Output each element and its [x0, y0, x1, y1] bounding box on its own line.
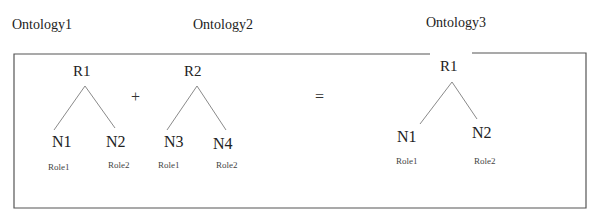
ontology1-title: Ontology1 — [12, 17, 72, 33]
tree1-node-left: N1 — [52, 133, 72, 151]
tree2-edges — [167, 86, 226, 130]
tree1-role-left: Role1 — [48, 162, 70, 172]
plus-operator: + — [131, 88, 140, 106]
diagram-lines — [0, 0, 594, 224]
tree3-node-left: N1 — [397, 128, 417, 146]
tree1-edges — [54, 86, 115, 130]
ontology2-title: Ontology2 — [193, 17, 253, 33]
tree1-node-right: N2 — [106, 133, 126, 151]
tree3-role-left: Role1 — [396, 156, 418, 166]
tree2-node-right: N4 — [213, 135, 233, 153]
tree2-role-right: Role2 — [216, 160, 238, 170]
tree3-role-right: Role2 — [474, 156, 496, 166]
tree2-role-left: Role1 — [158, 160, 180, 170]
tree1-role-right: Role2 — [108, 160, 130, 170]
tree3-edges — [420, 82, 477, 124]
tree3-node-right: N2 — [472, 124, 492, 142]
ontology3-title: Ontology3 — [426, 15, 486, 31]
tree2-root: R2 — [184, 63, 202, 80]
tree3-root: R1 — [440, 58, 458, 75]
tree2-node-left: N3 — [164, 133, 184, 151]
equals-operator: = — [315, 88, 324, 106]
tree1-root: R1 — [73, 63, 91, 80]
frame-border — [14, 53, 586, 208]
